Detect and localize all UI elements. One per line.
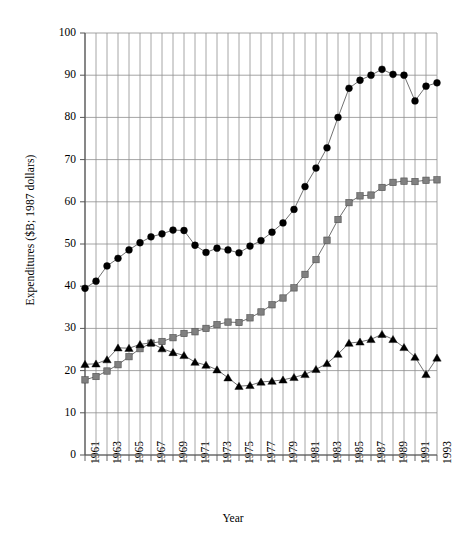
marker-circle (159, 230, 166, 237)
marker-circle (379, 66, 386, 73)
marker-square (258, 309, 264, 315)
marker-square (93, 373, 99, 379)
marker-circle (148, 233, 155, 240)
marker-circle (115, 255, 122, 262)
marker-triangle (389, 335, 397, 342)
x-axis-label: Year (0, 512, 466, 524)
marker-triangle (433, 354, 441, 361)
marker-square (181, 330, 187, 336)
marker-circle (258, 237, 265, 244)
marker-circle (236, 249, 243, 256)
marker-triangle (246, 381, 254, 388)
marker-circle (335, 114, 342, 121)
marker-square (313, 256, 319, 262)
marker-circle (192, 242, 199, 249)
marker-square (280, 295, 286, 301)
marker-triangle (114, 344, 122, 351)
marker-triangle (158, 345, 166, 352)
marker-circle (170, 227, 177, 234)
marker-circle (368, 72, 375, 79)
marker-square (324, 237, 330, 243)
marker-square (126, 353, 132, 359)
marker-circle (401, 72, 408, 79)
marker-triangle (367, 335, 375, 342)
marker-square (412, 178, 418, 184)
marker-circle (247, 243, 254, 250)
marker-circle (434, 79, 441, 86)
marker-circle (390, 71, 397, 78)
marker-circle (313, 165, 320, 172)
marker-square (423, 177, 429, 183)
marker-circle (203, 249, 210, 256)
expenditures-line-chart: Expenditures ($B; 1987 dollars) 01020304… (0, 0, 466, 540)
marker-triangle (378, 330, 386, 337)
marker-circle (126, 247, 133, 254)
marker-circle (302, 183, 309, 190)
marker-triangle (169, 349, 177, 356)
plot-area (0, 0, 466, 540)
marker-triangle (191, 358, 199, 365)
marker-square (390, 179, 396, 185)
marker-square (82, 377, 88, 383)
marker-square (291, 285, 297, 291)
marker-circle (280, 220, 287, 227)
marker-square (335, 216, 341, 222)
marker-square (401, 178, 407, 184)
marker-circle (137, 239, 144, 246)
marker-square (269, 302, 275, 308)
marker-square (379, 184, 385, 190)
marker-circle (225, 247, 232, 254)
marker-triangle (92, 360, 100, 367)
marker-square (302, 271, 308, 277)
marker-circle (269, 229, 276, 236)
marker-square (104, 368, 110, 374)
marker-circle (181, 227, 188, 234)
marker-triangle (301, 370, 309, 377)
marker-circle (324, 144, 331, 151)
marker-circle (346, 85, 353, 92)
marker-square (115, 361, 121, 367)
marker-triangle (224, 374, 232, 381)
marker-triangle (312, 365, 320, 372)
marker-square (225, 319, 231, 325)
marker-circle (82, 285, 89, 292)
marker-circle (412, 98, 419, 105)
marker-triangle (400, 343, 408, 350)
marker-square (159, 338, 165, 344)
marker-square (247, 315, 253, 321)
marker-triangle (422, 370, 430, 377)
marker-square (203, 325, 209, 331)
marker-circle (104, 263, 111, 270)
marker-square (357, 193, 363, 199)
marker-circle (93, 278, 100, 285)
marker-square (236, 319, 242, 325)
marker-square (346, 199, 352, 205)
marker-circle (291, 206, 298, 213)
marker-square (214, 321, 220, 327)
marker-circle (357, 77, 364, 84)
marker-circle (423, 83, 430, 90)
marker-triangle (213, 366, 221, 373)
marker-square (434, 177, 440, 183)
marker-square (368, 192, 374, 198)
marker-square (192, 329, 198, 335)
marker-circle (214, 245, 221, 252)
marker-square (170, 334, 176, 340)
